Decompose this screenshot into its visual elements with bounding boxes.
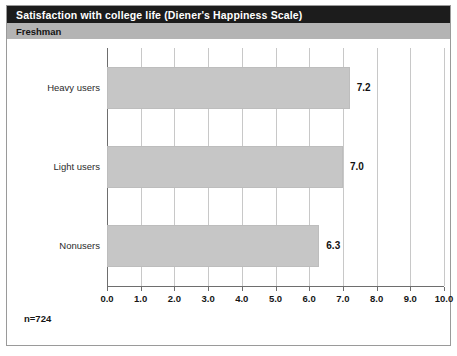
x-tick-label: 0.0 xyxy=(100,293,113,304)
tick-mark xyxy=(141,287,142,291)
x-tick-label: 1.0 xyxy=(134,293,147,304)
gridline xyxy=(444,48,445,286)
category-label: Nonusers xyxy=(4,240,100,251)
tick-mark xyxy=(377,287,378,291)
tick-mark xyxy=(410,287,411,291)
x-tick-label: 4.0 xyxy=(235,293,248,304)
chart-subtitle: Freshman xyxy=(7,26,61,37)
x-tick-label: 3.0 xyxy=(201,293,214,304)
tick-mark xyxy=(242,287,243,291)
x-tick-label: 7.0 xyxy=(336,293,349,304)
bar-value-label: 6.3 xyxy=(326,240,340,251)
bar-value-label: 7.0 xyxy=(350,161,364,172)
tick-mark xyxy=(276,287,277,291)
tick-mark xyxy=(444,287,445,291)
x-tick-label: 6.0 xyxy=(303,293,316,304)
x-tick-label: 9.0 xyxy=(404,293,417,304)
tick-mark xyxy=(107,287,108,291)
bar-value-label: 7.2 xyxy=(357,82,371,93)
tick-mark xyxy=(174,287,175,291)
x-tick-label: 5.0 xyxy=(269,293,282,304)
sample-size-note: n=724 xyxy=(24,313,51,324)
category-axis-labels: Heavy usersLight usersNonusers xyxy=(0,48,100,286)
x-tick-label: 2.0 xyxy=(168,293,181,304)
chart-figure: Satisfaction with college life (Diener's… xyxy=(0,0,457,356)
tick-mark xyxy=(208,287,209,291)
chart-title: Satisfaction with college life (Diener's… xyxy=(7,9,302,21)
category-label: Light users xyxy=(4,161,100,172)
bar xyxy=(107,225,319,267)
chart-subtitle-bar: Freshman xyxy=(7,23,450,39)
category-label: Heavy users xyxy=(4,82,100,93)
x-axis-ticks: 0.01.02.03.04.05.06.07.08.09.010.0 xyxy=(107,287,444,311)
x-tick-label: 10.0 xyxy=(435,293,454,304)
tick-mark xyxy=(343,287,344,291)
tick-mark xyxy=(309,287,310,291)
bar xyxy=(107,67,350,109)
x-tick-label: 8.0 xyxy=(370,293,383,304)
bar xyxy=(107,146,343,188)
chart-title-bar: Satisfaction with college life (Diener's… xyxy=(7,6,450,23)
bar-series: 7.27.06.3 xyxy=(107,48,444,286)
